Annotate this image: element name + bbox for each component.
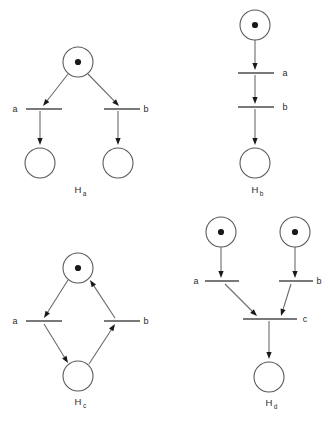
transition-Hb-b[interactable]: b xyxy=(238,102,288,112)
net-caption-sub-Hd: d xyxy=(274,403,278,410)
place-circle-p-left[interactable] xyxy=(25,148,55,178)
transition-label-c: c xyxy=(303,314,308,324)
arc-pbottom-b-line xyxy=(89,327,113,364)
arc-b-pright-arrowhead-icon xyxy=(115,138,120,145)
place-circle-p-bottom[interactable] xyxy=(254,362,284,392)
place-circle-p-bottom[interactable] xyxy=(240,148,270,178)
arc-a-pbottom xyxy=(44,324,68,363)
arc-ptop-a xyxy=(252,40,257,70)
petri-net-Hb: abHb xyxy=(238,10,288,197)
petri-net-Ha: abHa xyxy=(12,47,148,197)
net-caption-main-Ha: H xyxy=(75,184,82,195)
nets-layer: abHaabHbabHcabcHd xyxy=(12,10,321,410)
arc-b-pbottom xyxy=(252,109,257,145)
arc-c-pbottom-arrowhead-icon xyxy=(266,352,271,359)
net-caption-main-Hd: H xyxy=(266,397,273,408)
net-caption-Ha: Ha xyxy=(75,184,87,197)
net-caption-sub-Hb: b xyxy=(260,190,264,197)
transition-Hd-b[interactable]: b xyxy=(279,276,322,286)
arc-a-b xyxy=(252,75,257,104)
arc-ptop-b xyxy=(88,74,119,106)
place-Hc-p-bottom[interactable] xyxy=(63,361,93,391)
petri-net-figure: abHaabHbabHcabcHd xyxy=(0,0,328,422)
net-caption-Hd: Hd xyxy=(266,397,278,410)
arc-b-c-line xyxy=(282,284,291,313)
transition-label-b: b xyxy=(143,316,148,326)
arc-b-c-arrowhead-icon xyxy=(281,309,286,316)
petri-net-Hc: abHc xyxy=(12,253,148,409)
arc-ptr-b-arrowhead-icon xyxy=(292,271,297,278)
place-circle-p-right[interactable] xyxy=(103,148,133,178)
transition-Ha-b[interactable]: b xyxy=(104,104,149,114)
transition-Hb-a[interactable]: a xyxy=(238,68,288,78)
arc-b-pright xyxy=(115,111,120,145)
arc-a-b-arrowhead-icon xyxy=(252,97,257,104)
token-dot-p-top xyxy=(75,59,81,65)
net-caption-main-Hb: H xyxy=(252,184,259,195)
net-caption-main-Hc: H xyxy=(75,396,82,407)
transition-label-a: a xyxy=(193,276,198,286)
transition-Hc-b[interactable]: b xyxy=(104,316,149,326)
arc-ptop-a-arrowhead-icon xyxy=(252,63,257,70)
arc-ptl-a-arrowhead-icon xyxy=(218,271,223,278)
net-caption-sub-Hc: c xyxy=(83,402,87,409)
arc-b-pbottom-arrowhead-icon xyxy=(252,138,257,145)
arc-ptop-a xyxy=(43,74,68,106)
place-Hb-p-bottom[interactable] xyxy=(240,148,270,178)
arc-b-c xyxy=(281,284,291,316)
token-dot-p-top-right xyxy=(292,229,298,235)
transition-label-a: a xyxy=(12,104,17,114)
arc-ptop-a-line xyxy=(46,280,68,315)
arc-a-pbottom-arrowhead-icon xyxy=(62,356,68,363)
arc-pbottom-b-arrowhead-icon xyxy=(109,324,115,331)
arc-c-pbottom xyxy=(266,321,271,359)
place-Hc-p-top[interactable] xyxy=(63,253,93,283)
net-caption-Hc: Hc xyxy=(75,396,87,409)
token-dot-p-top xyxy=(75,265,81,271)
place-Ha-p-top[interactable] xyxy=(63,47,93,77)
arc-ptl-a xyxy=(218,247,223,278)
petri-net-Hd: abcHd xyxy=(193,217,321,410)
transition-label-a: a xyxy=(282,68,287,78)
arc-ptop-a xyxy=(44,280,68,318)
arc-a-pleft xyxy=(37,111,42,145)
transition-label-b: b xyxy=(143,104,148,114)
petri-net-canvas: abHaabHbabHcabcHd xyxy=(0,0,328,422)
arc-b-ptop xyxy=(90,280,115,318)
token-dot-p-top xyxy=(252,22,258,28)
arc-ptr-b xyxy=(292,247,297,278)
arc-a-pleft-arrowhead-icon xyxy=(37,138,42,145)
place-circle-p-bottom[interactable] xyxy=(63,361,93,391)
transition-Hd-c[interactable]: c xyxy=(243,314,308,324)
place-Hd-p-top-right[interactable] xyxy=(280,217,310,247)
arc-a-c-line xyxy=(225,284,255,314)
transition-Hc-a[interactable]: a xyxy=(12,316,62,326)
arc-b-ptop-line xyxy=(92,283,115,318)
arc-a-c xyxy=(225,284,257,316)
place-Hd-p-bottom[interactable] xyxy=(254,362,284,392)
place-Hd-p-top-left[interactable] xyxy=(206,217,236,247)
place-Ha-p-right[interactable] xyxy=(103,148,133,178)
net-caption-sub-Ha: a xyxy=(83,190,87,197)
transition-label-b: b xyxy=(316,276,321,286)
arc-pbottom-b xyxy=(89,324,115,364)
token-dot-p-top-left xyxy=(218,229,224,235)
place-Hb-p-top[interactable] xyxy=(240,10,270,40)
arc-ptop-a-line xyxy=(45,74,68,103)
net-caption-Hb: Hb xyxy=(252,184,264,197)
transition-Hd-a[interactable]: a xyxy=(193,276,239,286)
place-Ha-p-left[interactable] xyxy=(25,148,55,178)
arc-ptop-a-arrowhead-icon xyxy=(44,311,50,318)
arc-b-ptop-arrowhead-icon xyxy=(90,280,96,287)
transition-label-b: b xyxy=(282,102,287,112)
transition-label-a: a xyxy=(12,316,17,326)
transition-Ha-a[interactable]: a xyxy=(12,104,62,114)
arc-a-pbottom-line xyxy=(44,324,66,360)
arc-ptop-b-line xyxy=(88,74,117,104)
